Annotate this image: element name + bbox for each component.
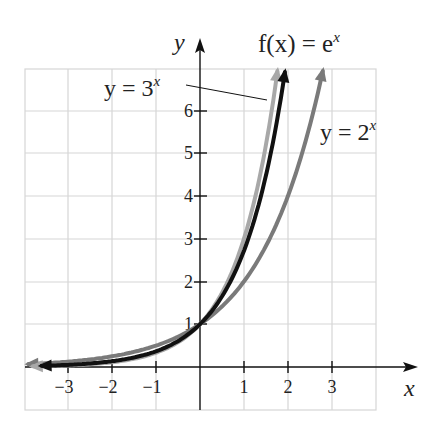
y-tick-label: 5 <box>184 143 193 163</box>
y-tick-label: 6 <box>184 101 193 121</box>
y-axis-label: y <box>172 29 185 55</box>
curves <box>24 67 326 372</box>
leader-line <box>186 85 267 100</box>
y-tick-label: 4 <box>184 186 193 206</box>
x-tick-label: −2 <box>98 377 117 397</box>
x-tick-label: −3 <box>54 377 73 397</box>
x-tick-label: −1 <box>142 377 161 397</box>
label-y-3x: y = 3x <box>104 73 161 101</box>
x-tick-label: 3 <box>328 377 337 397</box>
x-tick-labels: −3 −2 −1 1 2 3 <box>54 377 336 397</box>
exponential-functions-chart: −3 −2 −1 1 2 3 1 2 3 4 5 6 x y y = 3x f(… <box>0 0 433 429</box>
x-tick-label: 2 <box>284 377 293 397</box>
y-tick-labels: 1 2 3 4 5 6 <box>184 101 193 334</box>
y-tick-label: 3 <box>184 229 193 249</box>
label-y-2x: y = 2x <box>320 117 377 145</box>
y-tick-label: 2 <box>184 272 193 292</box>
curve-3x <box>33 71 278 366</box>
label-f-ex: f(x) = ex <box>258 29 340 58</box>
x-tick-label: 1 <box>240 377 249 397</box>
x-axis-label: x <box>403 375 415 401</box>
axes <box>25 38 418 410</box>
